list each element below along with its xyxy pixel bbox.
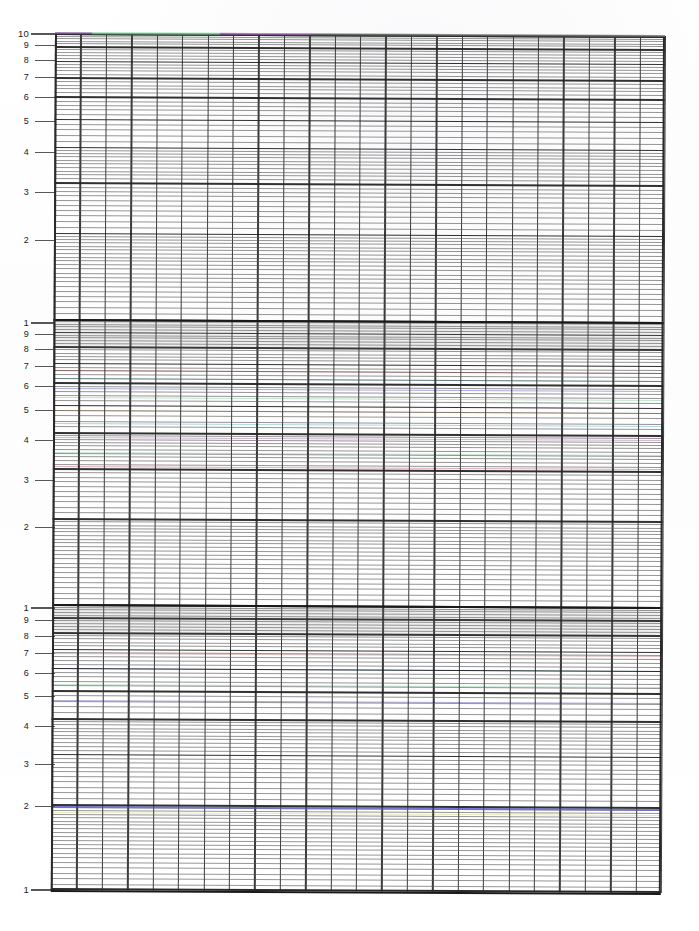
y-tick-label: 4 — [24, 147, 29, 157]
y-tick-label: 3 — [24, 187, 29, 197]
y-tick-mark — [35, 77, 55, 78]
y-tick-label: 1 — [24, 884, 29, 895]
y-tick-label: 7 — [24, 72, 29, 82]
y-tick-mark — [35, 97, 55, 98]
y-tick-label: 4 — [24, 435, 29, 445]
segment-grey-right — [311, 33, 665, 37]
y-axis: 10987654321987654321987654321 — [0, 0, 55, 931]
y-tick-label: 6 — [24, 381, 29, 391]
y-tick-mark — [35, 349, 55, 350]
y-tick-label: 6 — [24, 92, 29, 102]
segment-green — [92, 32, 220, 35]
y-tick-label: 5 — [24, 691, 29, 701]
y-tick-label: 2 — [24, 235, 29, 245]
graph-grid[interactable] — [51, 33, 665, 893]
y-tick-label: 2 — [24, 801, 29, 811]
y-tick-mark — [35, 440, 55, 441]
y-tick-label: 3 — [24, 475, 29, 485]
y-tick-mark — [31, 322, 55, 324]
y-tick-mark — [35, 334, 55, 335]
segment-purple-left — [55, 32, 92, 34]
y-tick-label: 2 — [24, 522, 29, 532]
y-tick-label: 5 — [24, 405, 29, 415]
y-tick-label: 10 — [18, 28, 29, 39]
y-tick-label: 1 — [24, 317, 29, 328]
y-tick-mark — [35, 386, 55, 387]
y-tick-label: 7 — [24, 361, 29, 371]
y-tick-label: 4 — [24, 721, 29, 731]
y-tick-label: 1 — [24, 602, 29, 613]
y-tick-mark — [35, 152, 55, 153]
y-tick-label: 8 — [24, 55, 29, 65]
y-tick-mark — [35, 410, 55, 411]
y-tick-mark — [35, 240, 55, 241]
y-tick-mark — [35, 366, 55, 367]
y-tick-label: 7 — [24, 648, 29, 658]
y-tick-label: 9 — [24, 329, 29, 339]
y-tick-mark — [35, 60, 55, 61]
y-tick-label: 8 — [24, 631, 29, 641]
y-tick-mark — [31, 33, 55, 35]
y-tick-label: 5 — [24, 116, 29, 126]
y-tick-mark — [35, 45, 55, 46]
segment-magenta — [220, 33, 312, 36]
y-tick-label: 6 — [24, 668, 29, 678]
y-tick-label: 9 — [24, 615, 29, 625]
y-tick-mark — [35, 192, 55, 193]
y-tick-label: 3 — [24, 759, 29, 769]
y-tick-label: 8 — [24, 344, 29, 354]
y-tick-mark — [35, 121, 55, 122]
top-rule-color-segments — [51, 33, 665, 893]
y-tick-label: 9 — [24, 40, 29, 50]
